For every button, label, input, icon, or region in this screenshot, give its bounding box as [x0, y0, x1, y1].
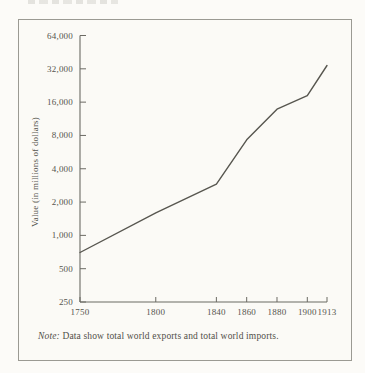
line-chart: Value (in millions of dollars) 2505001,0…: [0, 0, 365, 373]
y-axis-title: Value (in millions of dollars): [30, 117, 40, 227]
y-tick-label: 16,000: [47, 97, 73, 107]
y-tick-label: 64,000: [47, 31, 73, 41]
x-tick-label: 1913: [318, 307, 337, 317]
x-tick-label: 1880: [268, 307, 287, 317]
x-tick-label: 1840: [207, 307, 226, 317]
note-label: Note:: [38, 331, 60, 341]
y-tick-label: 2,000: [52, 197, 74, 207]
y-tick-label: 250: [59, 297, 73, 307]
x-tick-label: 1800: [146, 307, 165, 317]
figure-note: Note: Data show total world exports and …: [38, 331, 338, 341]
scanned-book-page: Value (in millions of dollars) 2505001,0…: [0, 0, 365, 373]
x-tick-label: 1900: [298, 307, 317, 317]
y-tick-label: 4,000: [52, 164, 74, 174]
series-line: [80, 66, 327, 253]
y-tick-label: 32,000: [47, 64, 73, 74]
x-tick-label: 1860: [237, 307, 256, 317]
y-tick-label: 500: [59, 264, 73, 274]
y-tick-label: 8,000: [52, 130, 74, 140]
y-tick-label: 1,000: [52, 230, 74, 240]
note-text: Data show total world exports and total …: [62, 331, 278, 341]
x-tick-label: 1750: [71, 307, 90, 317]
